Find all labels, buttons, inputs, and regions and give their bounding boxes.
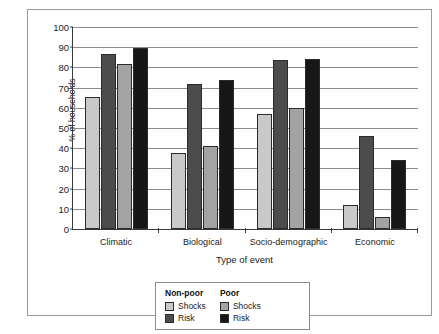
legend-label: Risk [233,313,250,323]
bar-groups: ClimaticBiologicalSocio-demographicEcono… [73,27,418,229]
x-axis-category-label: Economic [355,237,395,247]
x-axis-tick-mark [417,228,418,233]
legend-swatch [220,314,229,323]
y-axis-tick-label: 0 [64,224,69,235]
bar [219,80,234,229]
chart-legend: Non-poorShocksRiskPoorShocksRisk [155,282,310,330]
y-axis-tick-label: 10 [58,203,69,214]
legend-swatch [165,314,174,323]
bar-group: Socio-demographic [246,27,332,229]
legend-entry: Shocks [165,301,206,311]
bar [171,153,186,229]
bar-group: Climatic [73,27,159,229]
y-axis-tick-label: 100 [53,22,69,33]
legend-swatch [220,302,229,311]
legend-label: Risk [178,313,195,323]
legend-entry: Shocks [220,301,261,311]
y-axis-tick-label: 20 [58,183,69,194]
bar [359,136,374,229]
x-axis-title: Type of event [72,254,417,265]
bar [391,160,406,229]
legend-swatch [165,302,174,311]
bar [305,59,320,229]
y-axis-tick-label: 70 [58,82,69,93]
bar-group: Economic [332,27,418,229]
y-axis-tick-label: 80 [58,62,69,73]
bar [187,84,202,229]
bar [273,60,288,229]
chart-figure: % of households 1009080706050403020100 C… [27,9,432,316]
x-axis-category-label: Climatic [100,237,132,247]
legend-label: Shocks [233,301,261,311]
legend-entry: Risk [165,313,206,323]
bar [257,114,272,229]
caption-strip [12,325,292,332]
bar [101,54,116,229]
bar [343,205,358,229]
legend-column: Non-poorShocksRisk [165,288,206,323]
y-axis-tick-label: 40 [58,143,69,154]
plot-wrapper: % of households 1009080706050403020100 C… [28,10,433,250]
legend-group-title: Non-poor [165,288,206,298]
x-axis-category-label: Socio-demographic [250,237,328,247]
legend-column: PoorShocksRisk [220,288,261,323]
bar [85,97,100,229]
bar-group: Biological [159,27,245,229]
bar [289,108,304,229]
bar [133,48,148,229]
bar [117,64,132,229]
y-axis-tick-label: 30 [58,163,69,174]
legend-entry: Risk [220,313,261,323]
bar [375,217,390,229]
legend-label: Shocks [178,301,206,311]
bar [203,146,218,229]
y-axis-tick-label: 90 [58,42,69,53]
plot-area: 1009080706050403020100 ClimaticBiologica… [72,27,418,230]
y-axis-tick-label: 60 [58,102,69,113]
x-axis-category-label: Biological [183,237,222,247]
legend-group-title: Poor [220,288,261,298]
y-axis-tick-label: 50 [58,123,69,134]
